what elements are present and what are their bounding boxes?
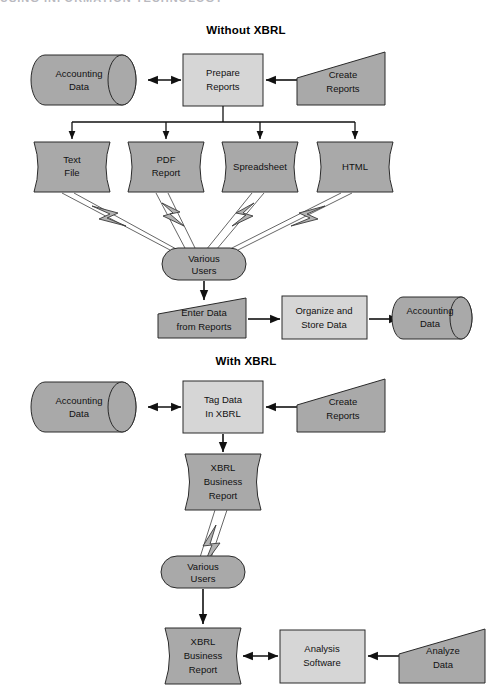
node-enter-data: Enter Data from Reports [158,298,246,338]
node-label: HTML [342,161,368,172]
node-label: Data [433,659,454,670]
connector-lightning-html-users [228,193,352,250]
node-text-file: Text File [34,142,110,192]
node-label: Accounting [55,68,102,79]
node-label: Various [188,253,220,264]
node-html: HTML [317,142,393,192]
node-label: Reports [206,81,240,92]
section-title-without-xbrl: Without XBRL [206,24,286,36]
node-accounting-data-right: Accounting Data [392,297,472,339]
node-create-reports-bottom: Create Reports [297,379,385,432]
node-label: Report [209,490,238,501]
node-xbrl-business-report-bottom: XBRL Business Report [165,628,241,684]
node-label: Tag Data [204,394,243,405]
node-label: Reports [326,410,360,421]
node-create-reports-top: Create Reports [297,52,385,105]
node-label: Reports [326,83,360,94]
node-label: Users [192,265,217,276]
node-label: PDF [157,154,176,165]
node-label: Store Data [301,319,347,330]
diagram-page: USING INFORMATION TECHNOLOGY Without XBR… [0,0,493,692]
node-label: Enter Data [181,307,227,318]
node-spreadsheet: Spreadsheet [222,142,298,192]
node-analyze-data: Analyze Data [399,629,485,683]
node-xbrl-business-report-mid: XBRL Business Report [185,454,261,510]
node-label: Users [191,573,216,584]
node-label: Analysis [304,643,340,654]
node-label: Report [152,167,181,178]
node-tag-data-in-xbrl: Tag Data In XBRL [183,381,263,433]
node-label: File [64,167,79,178]
node-pdf-report: PDF Report [128,142,204,192]
node-label: In XBRL [205,408,240,419]
node-label: Create [329,396,358,407]
node-label: from Reports [177,321,232,332]
node-organize-store-data: Organize and Store Data [282,296,367,339]
node-label: Organize and [295,305,352,316]
node-label: Accounting [406,305,453,316]
node-label: XBRL [211,462,236,473]
node-label: Data [69,81,90,92]
node-various-users-bottom: Various Users [161,556,245,588]
node-label: Business [204,476,243,487]
node-label: Data [420,318,441,329]
node-label: Data [69,408,90,419]
node-label: Analyze [426,645,460,656]
node-analysis-software: Analysis Software [280,630,365,683]
node-label: Prepare [206,67,240,78]
xbrl-flow-diagram: Without XBRL Accounting Data Prepare Rep… [0,0,493,692]
node-label: Text [63,154,81,165]
node-prepare-reports: Prepare Reports [183,54,263,106]
node-accounting-data-bottom: Accounting Data [31,382,136,432]
node-label: Various [187,561,219,572]
node-label: Business [184,650,223,661]
node-label: Create [329,69,358,80]
node-label: XBRL [191,636,216,647]
node-label: Software [303,657,341,668]
node-accounting-data-top: Accounting Data [31,55,136,105]
node-label: Report [189,664,218,675]
node-label: Accounting [55,395,102,406]
node-various-users-top: Various Users [162,248,246,280]
section-title-with-xbrl: With XBRL [215,355,276,367]
connector-bus-prepare-to-documents [72,106,355,139]
node-label: Spreadsheet [233,161,287,172]
